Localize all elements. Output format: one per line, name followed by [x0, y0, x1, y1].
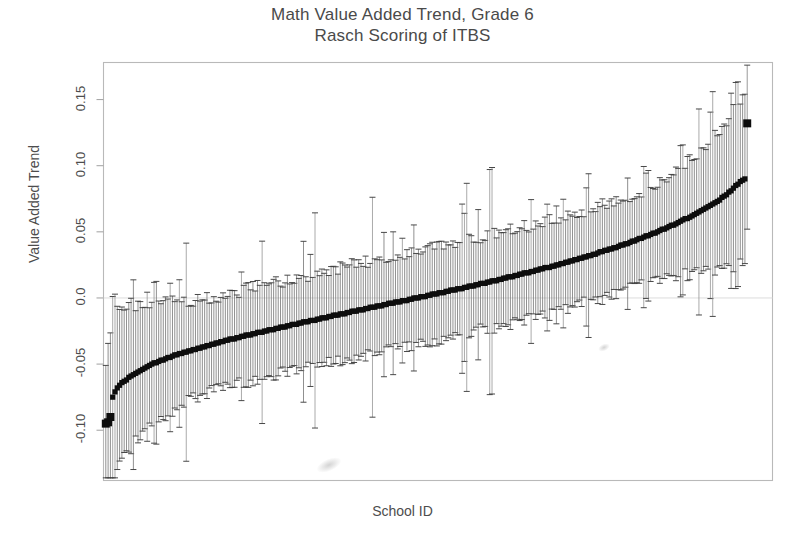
data-point-marker: [106, 413, 114, 421]
data-point-marker: [110, 395, 115, 400]
data-point-marker: [742, 176, 747, 181]
plot-frame-rect: [104, 63, 773, 481]
plot-area: [0, 0, 805, 544]
y-axis-ticks: [97, 100, 104, 431]
data-point-markers: [102, 119, 751, 427]
plot-frame: [104, 63, 773, 481]
figure-canvas: Math Value Added Trend, Grade 6 Rasch Sc…: [0, 0, 805, 544]
error-bars: [103, 65, 750, 478]
data-point-marker: [743, 119, 751, 127]
